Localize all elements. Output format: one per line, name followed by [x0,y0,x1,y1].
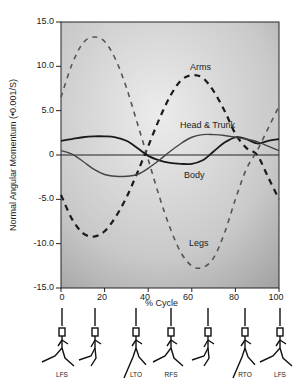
body-label: Body [184,170,205,180]
x-tick-label: 20 [90,292,114,302]
y-tick-label: 15.0 [18,16,54,26]
y-tick-label: -5.0 [18,193,54,203]
phase-label: RFS [156,371,186,378]
stick-figure [79,308,101,366]
y-tick-label: -15.0 [18,282,54,292]
stick-figure [260,308,292,366]
stick-figure [42,308,74,366]
y-tick-label: 0 [18,149,54,159]
stick-figure [192,308,214,366]
x-tick-label: 40 [133,292,157,302]
stick-figure [233,308,255,378]
y-axis-ticks [56,22,61,288]
y-tick-label: 10.0 [18,60,54,70]
legs-label: Legs [189,238,209,248]
x-tick-label: 60 [176,292,200,302]
phase-label: LTO [121,371,151,378]
phase-label: RTO [230,371,260,378]
y-axis-label: Normal Angular Momentum (•0.001/S) [8,35,18,275]
x-tick-label: 0 [50,292,74,302]
stick-figure [124,308,146,378]
phase-label: LFS [47,371,77,378]
arms-label: Arms [190,62,211,72]
y-tick-label: 5.0 [18,105,54,115]
x-tick-label: 80 [222,292,246,302]
gait-stick-figures [42,308,292,378]
stick-figure [153,308,183,366]
phase-label: LFS [265,371,295,378]
head-trunk-label: Head & Trunk [180,120,235,130]
x-tick-label: 100 [264,292,288,302]
y-tick-label: -10.0 [18,238,54,248]
